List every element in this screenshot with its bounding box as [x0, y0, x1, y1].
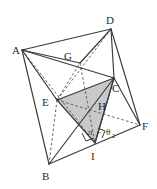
vertex-label-A: A: [12, 44, 20, 56]
vertex-label-E: E: [42, 96, 49, 108]
edge-A-D: [22, 29, 111, 50]
angle-theta-subscript: 2: [112, 132, 115, 139]
vertex-label-G: G: [64, 50, 72, 62]
edge-G-D: [80, 29, 111, 63]
vertex-label-C: C: [112, 82, 119, 94]
vertex-label-F: F: [142, 120, 148, 132]
edge-D-F: [111, 29, 140, 125]
vertex-label-D: D: [106, 14, 114, 26]
angle-minus-symbol: −: [96, 127, 101, 137]
edge-A-E-visible: [22, 50, 57, 100]
vertex-label-B: B: [42, 170, 49, 182]
geometry-figure: A D G C E H F I B π − θ 2: [0, 0, 157, 189]
angle-theta-symbol: θ: [106, 127, 110, 137]
angle-pi-symbol: π: [88, 127, 93, 137]
vertex-label-H: H: [98, 100, 106, 112]
vertex-label-I: I: [91, 150, 95, 162]
figure-canvas: A D G C E H F I B π − θ 2: [0, 0, 157, 189]
